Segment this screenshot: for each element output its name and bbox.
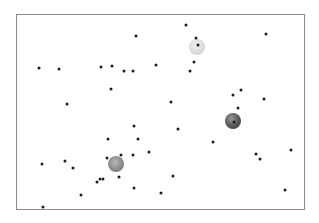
food-dot	[120, 154, 123, 157]
food-dot	[155, 64, 158, 67]
food-dot	[284, 189, 287, 192]
food-dot	[41, 163, 44, 166]
food-dot	[132, 154, 135, 157]
food-dot	[263, 98, 266, 101]
food-dot	[133, 125, 136, 128]
food-dot	[189, 70, 192, 73]
food-dot	[197, 44, 200, 47]
food-dot	[237, 107, 240, 110]
food-dot	[80, 194, 83, 197]
food-dot	[132, 70, 135, 73]
food-dot	[255, 153, 258, 156]
food-dot	[58, 68, 61, 71]
food-dot	[42, 206, 45, 209]
game-arena[interactable]	[16, 14, 305, 210]
food-dot	[133, 187, 136, 190]
food-dot	[72, 167, 75, 170]
light-sphere[interactable]	[189, 39, 205, 55]
food-dot	[233, 121, 236, 124]
food-dot	[290, 149, 293, 152]
food-dot	[123, 70, 126, 73]
food-dot	[195, 37, 198, 40]
food-dot	[265, 33, 268, 36]
food-dot	[102, 178, 105, 181]
food-dot	[177, 128, 180, 131]
food-dot	[110, 88, 113, 91]
food-dot	[148, 151, 151, 154]
food-dot	[172, 175, 175, 178]
food-dot	[160, 192, 163, 195]
food-dot	[66, 103, 69, 106]
food-dot	[185, 24, 188, 27]
food-dot	[193, 61, 196, 64]
food-dot	[111, 65, 114, 68]
food-dot	[137, 138, 140, 141]
food-dot	[259, 158, 262, 161]
medium-sphere[interactable]	[108, 156, 124, 172]
food-dot	[96, 181, 99, 184]
food-dot	[100, 66, 103, 69]
food-dot	[232, 94, 235, 97]
food-dot	[107, 138, 110, 141]
food-dot	[118, 176, 121, 179]
food-dot	[170, 101, 173, 104]
food-dot	[106, 157, 109, 160]
food-dot	[64, 160, 67, 163]
food-dot	[38, 67, 41, 70]
food-dot	[135, 35, 138, 38]
food-dot	[240, 89, 243, 92]
food-dot	[212, 141, 215, 144]
